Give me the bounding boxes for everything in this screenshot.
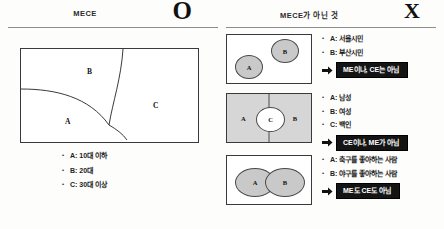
list-item: B: 부산시민 — [322, 49, 440, 57]
header-divider — [8, 27, 218, 28]
mece-partition-curves — [21, 49, 196, 140]
shape-a: A — [241, 115, 246, 122]
mece-legend-list: A: 10대 이하 B: 20대 C: 30대 이상 — [62, 152, 107, 196]
circle-mark-icon: O — [173, 0, 192, 23]
list-item: B: 야구를 좋아하는 사람 — [322, 170, 440, 178]
mece-panel-header: MECE O — [0, 0, 222, 30]
row-1-content: A: 서울시민 B: 부산시민 ME이나, CE는 아님 — [322, 34, 440, 78]
header-divider — [226, 27, 436, 28]
shape-a: A — [235, 55, 263, 79]
diagram-split-box-with-center-circle: A C B — [226, 93, 312, 143]
list-item: A: 남성 — [322, 94, 440, 102]
row-3-content: A: 축구를 좋아하는 사람 B: 야구를 좋아하는 사람 ME도 CE도 아님 — [322, 155, 440, 199]
row-2-legend-list: A: 남성 B: 여성 C: 백인 — [322, 94, 440, 129]
non-mece-row-2: A C B A: 남성 B: 여성 C: 백인 CE이나, ME가 아님 — [226, 93, 440, 145]
arrow-right-icon — [322, 187, 333, 196]
region-label-b: B — [87, 67, 92, 76]
row-1-callout: ME이나, CE는 아님 — [322, 62, 440, 78]
mece-panel: MECE O B C A A: 10대 이하 B: 20대 C: 30대 이상 — [0, 0, 222, 229]
non-mece-row-3: A B A: 축구를 좋아하는 사람 B: 야구를 좋아하는 사람 ME도 CE… — [226, 155, 440, 207]
shape-b: B — [271, 39, 299, 63]
region-label-c: C — [153, 101, 158, 110]
shape-b: B — [265, 168, 305, 197]
list-item: A: 10대 이하 — [62, 152, 107, 160]
row-2-content: A: 남성 B: 여성 C: 백인 CE이나, ME가 아님 — [322, 93, 440, 151]
mece-venn-box: B C A — [20, 48, 199, 143]
row-3-legend-list: A: 축구를 좋아하는 사람 B: 야구를 좋아하는 사람 — [322, 156, 440, 177]
row-2-conclusion-banner: CE이나, ME가 아님 — [336, 135, 408, 151]
non-mece-panel-header: MECE가 아닌 것 X — [222, 0, 444, 30]
row-1-legend-list: A: 서울시민 B: 부산시민 — [322, 35, 440, 56]
shape-c: C — [256, 107, 285, 132]
row-3-conclusion-banner: ME도 CE도 아님 — [336, 183, 400, 199]
cross-mark-icon: X — [404, 0, 420, 22]
shape-b: B — [293, 115, 297, 122]
diagram-two-separate-circles: A B — [226, 34, 312, 84]
row-3-callout: ME도 CE도 아님 — [322, 183, 440, 199]
non-mece-row-1: A B A: 서울시민 B: 부산시민 ME이나, CE는 아님 — [226, 34, 440, 86]
list-item: C: 백인 — [322, 121, 440, 129]
arrow-right-icon — [322, 66, 333, 75]
diagram-two-overlapping-circles: A B — [226, 155, 312, 205]
list-item: A: 서울시민 — [322, 35, 440, 43]
mece-comparison-slide: MECE O B C A A: 10대 이하 B: 20대 C: 30대 이상 — [0, 0, 444, 229]
row-2-callout: CE이나, ME가 아님 — [322, 135, 440, 151]
arrow-right-icon — [322, 138, 333, 147]
row-1-conclusion-banner: ME이나, CE는 아님 — [336, 62, 408, 78]
non-mece-panel: MECE가 아닌 것 X A B A: 서울시민 B: 부산시민 ME이나, C… — [222, 0, 444, 229]
list-item: B: 20대 — [62, 167, 107, 175]
list-item: B: 여성 — [322, 108, 440, 116]
list-item: A: 축구를 좋아하는 사람 — [322, 156, 440, 164]
region-label-a: A — [65, 117, 70, 126]
list-item: C: 30대 이상 — [62, 181, 107, 189]
